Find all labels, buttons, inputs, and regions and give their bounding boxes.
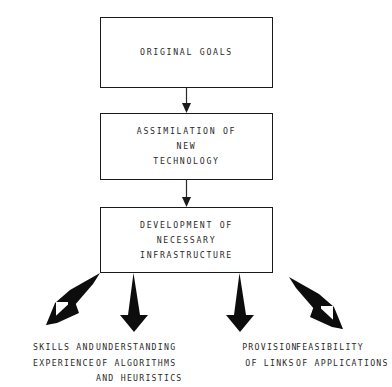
fanout-arrow-skills-head-icon bbox=[46, 299, 79, 325]
outcome-label-algorithms: UNDERSTANDING OF ALGORITHMS AND HEURISTI… bbox=[96, 340, 226, 387]
fanout-arrow-algorithms-icon bbox=[120, 273, 148, 332]
fanout-arrow-feasibility-head-icon bbox=[310, 303, 343, 329]
fanout-arrow-feasibility-icon bbox=[289, 277, 343, 329]
outcome-label-feasibility: FEASIBILITY OF APPLICATIONS bbox=[296, 340, 392, 371]
fanout-arrow-skills-icon bbox=[46, 273, 100, 325]
fanout-arrow-links-icon bbox=[226, 273, 254, 332]
